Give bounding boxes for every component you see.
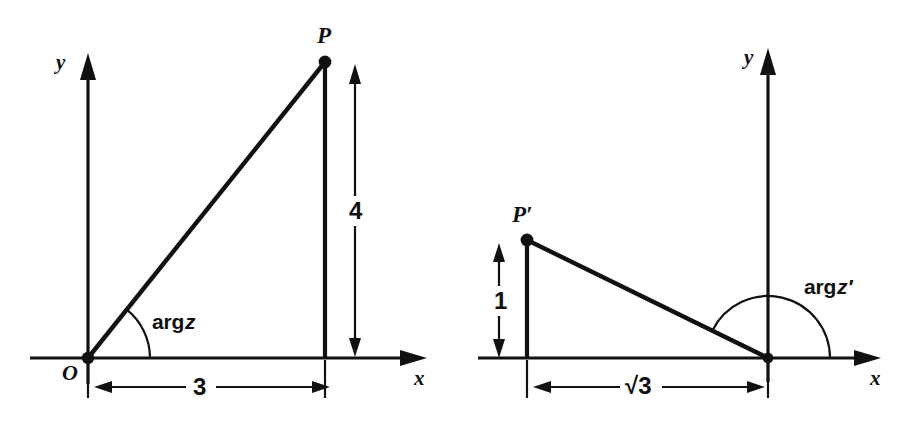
left-y-axis-arrowhead — [80, 53, 96, 80]
left-y-axis-label: y — [56, 52, 65, 73]
right-point-p-prime-label: P′ — [512, 203, 533, 226]
left-hypotenuse — [88, 62, 325, 358]
right-point-p-prime-dot — [521, 234, 534, 247]
right-dim1-arrowhead-bottom — [493, 339, 505, 358]
right-y-axis-label: y — [744, 47, 753, 68]
right-arg-word: arg — [804, 275, 836, 298]
left-origin-label: O — [62, 362, 78, 384]
right-dimsqrt3-arrowhead-end — [747, 381, 765, 393]
left-dim4-label: 4 — [349, 199, 362, 223]
right-x-axis-arrowhead — [854, 350, 881, 366]
right-y-axis-arrowhead — [760, 48, 776, 75]
right-dim1-label: 1 — [494, 289, 507, 313]
right-dimsqrt3-label: √3 — [625, 374, 652, 398]
right-hypotenuse — [527, 240, 768, 358]
left-point-p-label: P — [317, 24, 331, 47]
left-arg-variable: z — [184, 310, 196, 333]
left-dim4-arrowhead-bottom — [349, 338, 361, 357]
left-x-axis-label: x — [414, 368, 425, 389]
right-x-axis-label: x — [870, 368, 881, 389]
left-angle-arc — [127, 310, 150, 358]
right-diagram-group — [478, 48, 881, 398]
right-dim1-arrowhead-top — [493, 243, 505, 262]
right-dimsqrt3-arrowhead-start — [533, 381, 551, 393]
left-x-axis-arrowhead — [400, 350, 427, 366]
right-angle-arc — [712, 296, 830, 358]
left-dim3-arrowhead-start — [94, 381, 112, 393]
left-dim4-arrowhead-top — [349, 64, 361, 84]
figure-root: y x O P argz 3 4 y x P′ argz′ √3 1 — [0, 0, 907, 424]
right-arg-z-prime-label: argz′ — [804, 276, 853, 297]
left-arg-z-label: argz — [152, 311, 196, 332]
right-arg-variable: z′ — [836, 275, 853, 298]
left-arg-word: arg — [152, 310, 184, 333]
left-dim3-arrowhead-end — [312, 381, 330, 393]
figure-canvas — [0, 0, 907, 424]
left-dim3-label: 3 — [193, 375, 206, 399]
left-point-p-dot — [319, 56, 332, 69]
